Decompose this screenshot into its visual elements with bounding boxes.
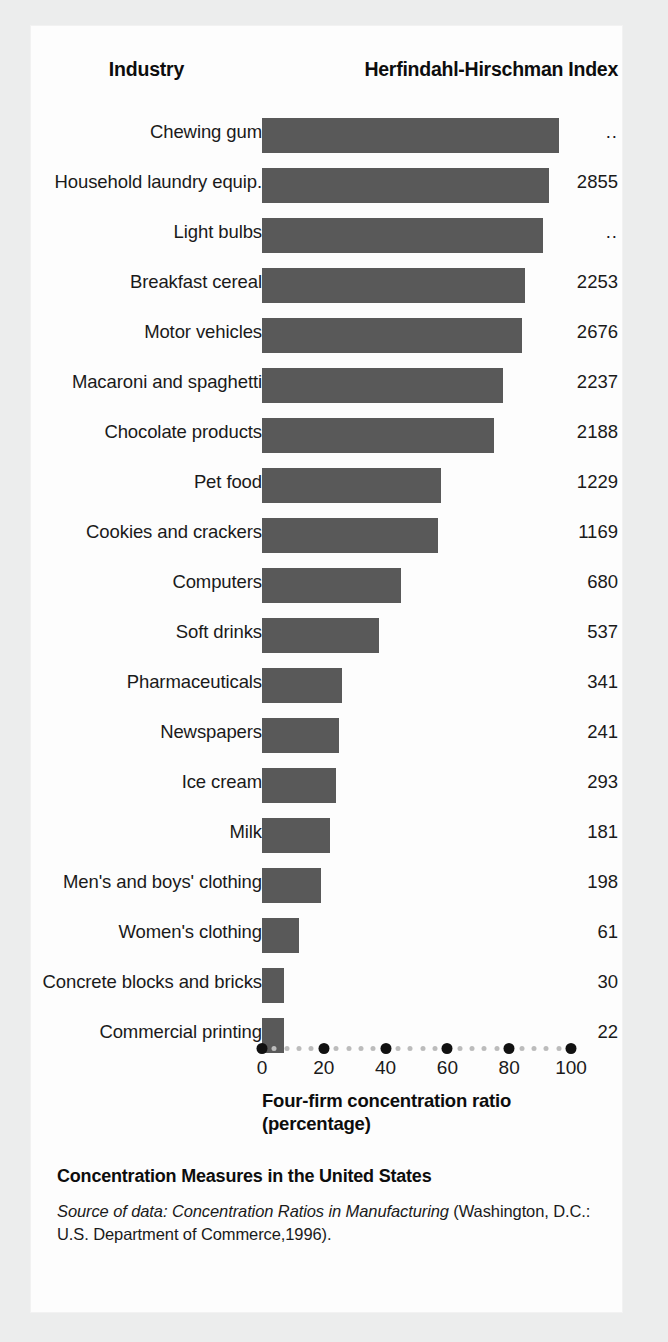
row-industry-label: Commercial printing [99, 1020, 262, 1044]
bar [262, 318, 522, 353]
axis-tick-label: 20 [313, 1057, 334, 1079]
chart-row: Breakfast cereal2253 [31, 260, 622, 310]
chart-row: Milk181 [31, 810, 622, 860]
x-axis-title-line2: (percentage) [262, 1112, 592, 1135]
row-hhi-value: 2855 [571, 170, 622, 194]
axis-minor-dot [519, 1046, 524, 1051]
bar [262, 468, 441, 503]
bar [262, 718, 339, 753]
row-industry-label: Ice cream [182, 770, 262, 794]
row-hhi-value: 1229 [571, 470, 622, 494]
axis-minor-dot [358, 1046, 363, 1051]
bar-track [262, 468, 571, 503]
row-hhi-value: 2253 [571, 270, 622, 294]
bar [262, 668, 342, 703]
axis-minor-dot [457, 1046, 462, 1051]
row-industry-label: Soft drinks [176, 620, 262, 644]
bar [262, 518, 438, 553]
bar-track [262, 368, 571, 403]
chart-row: Motor vehicles2676 [31, 310, 622, 360]
row-hhi-value: 2237 [571, 370, 622, 394]
bar-track [262, 518, 571, 553]
bar-track [262, 568, 571, 603]
bar [262, 418, 494, 453]
axis-tick-label: 80 [499, 1057, 520, 1079]
bar [262, 618, 379, 653]
bar-track [262, 968, 571, 1003]
bar [262, 968, 284, 1003]
axis-minor-dot [346, 1046, 351, 1051]
row-industry-label: Men's and boys' clothing [63, 870, 262, 894]
row-hhi-value: 293 [571, 770, 622, 794]
bar [262, 218, 543, 253]
axis-minor-dot [556, 1046, 561, 1051]
row-industry-label: Newspapers [160, 720, 262, 744]
axis-minor-dot [494, 1046, 499, 1051]
bar [262, 818, 330, 853]
axis-minor-dot [272, 1046, 277, 1051]
figure-source-note: Source of data: Concentration Ratios in … [57, 1200, 602, 1246]
axis-minor-dot [433, 1046, 438, 1051]
bar [262, 368, 503, 403]
axis-major-dot [442, 1043, 453, 1054]
column-header-hhi: Herfindahl-Hirschman Index [331, 58, 622, 81]
row-hhi-value: 537 [571, 620, 622, 644]
axis-major-dot [504, 1043, 515, 1054]
row-industry-label: Macaroni and spaghetti [72, 370, 262, 394]
figure-caption-title: Concentration Measures in the United Sta… [57, 1166, 602, 1187]
source-publication-title: Concentration Ratios in Manufacturing [167, 1202, 448, 1220]
row-industry-label: Light bulbs [174, 220, 262, 244]
chart-row: Men's and boys' clothing198 [31, 860, 622, 910]
chart-row: Macaroni and spaghetti2237 [31, 360, 622, 410]
row-hhi-value: .. [571, 120, 622, 144]
row-hhi-value: .. [571, 220, 622, 244]
row-hhi-value: 2676 [571, 320, 622, 344]
bar-track [262, 318, 571, 353]
row-hhi-value: 2188 [571, 420, 622, 444]
row-industry-label: Milk [230, 820, 262, 844]
chart-row: Pet food1229 [31, 460, 622, 510]
bar [262, 918, 299, 953]
axis-minor-dot [420, 1046, 425, 1051]
row-industry-label: Concrete blocks and bricks [43, 970, 263, 994]
row-industry-label: Pet food [194, 470, 262, 494]
chart-row: Women's clothing61 [31, 910, 622, 960]
axis-tick-label: 100 [555, 1057, 587, 1079]
row-hhi-value: 680 [571, 570, 622, 594]
bar-track [262, 768, 571, 803]
axis-major-dot [257, 1043, 268, 1054]
axis-minor-dot [395, 1046, 400, 1051]
bar [262, 118, 559, 153]
axis-minor-dot [408, 1046, 413, 1051]
chart-row: Chewing gum.. [31, 110, 622, 160]
chart-row: Computers680 [31, 560, 622, 610]
x-axis-dots [262, 1040, 582, 1056]
column-headers: Industry Herfindahl-Hirschman Index [31, 58, 622, 88]
axis-minor-dot [334, 1046, 339, 1051]
bar [262, 268, 525, 303]
axis-tick-label: 60 [437, 1057, 458, 1079]
bar-track [262, 918, 571, 953]
row-industry-label: Women's clothing [119, 920, 263, 944]
axis-minor-dot [297, 1046, 302, 1051]
chart-row: Concrete blocks and bricks30 [31, 960, 622, 1010]
axis-major-dot [566, 1043, 577, 1054]
row-industry-label: Chocolate products [104, 420, 262, 444]
chart-row: Soft drinks537 [31, 610, 622, 660]
x-axis-tick-labels: 020406080100 [262, 1057, 582, 1085]
x-axis-title: Four-firm concentration ratio (percentag… [262, 1089, 592, 1135]
row-industry-label: Computers [172, 570, 262, 594]
bar-track [262, 118, 571, 153]
chart-row: Pharmaceuticals341 [31, 660, 622, 710]
bar [262, 168, 549, 203]
figure-footer: Concentration Measures in the United Sta… [57, 1166, 602, 1246]
chart-row: Cookies and crackers1169 [31, 510, 622, 560]
chart-rows: Chewing gum..Household laundry equip.285… [31, 110, 622, 1060]
row-hhi-value: 181 [571, 820, 622, 844]
figure-card: Industry Herfindahl-Hirschman Index Chew… [31, 26, 622, 1312]
bar [262, 768, 336, 803]
row-hhi-value: 30 [571, 970, 622, 994]
chart-row: Newspapers241 [31, 710, 622, 760]
bar-track [262, 668, 571, 703]
bar-track [262, 268, 571, 303]
